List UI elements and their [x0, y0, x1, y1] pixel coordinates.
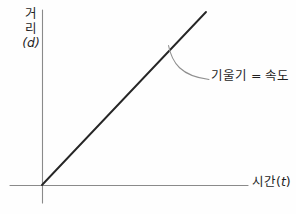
- x-axis-label-paren-close: ): [286, 174, 291, 189]
- y-axis-label-line2: 리: [17, 22, 45, 37]
- x-axis-label-name: 시간: [252, 174, 276, 189]
- distance-time-graph-figure: 거 리 (d) 시간(t) 기울기 = 속도: [0, 0, 296, 214]
- y-axis-label: 거 리 (d): [17, 7, 45, 51]
- slope-annotation-label: 기울기 = 속도: [211, 69, 289, 83]
- distance-time-line: [42, 12, 206, 185]
- annotation-leader-line: [169, 46, 210, 80]
- y-axis-label-line1: 거: [17, 7, 45, 22]
- y-axis-label-unit: (d): [17, 36, 45, 51]
- x-axis-label: 시간(t): [252, 175, 291, 189]
